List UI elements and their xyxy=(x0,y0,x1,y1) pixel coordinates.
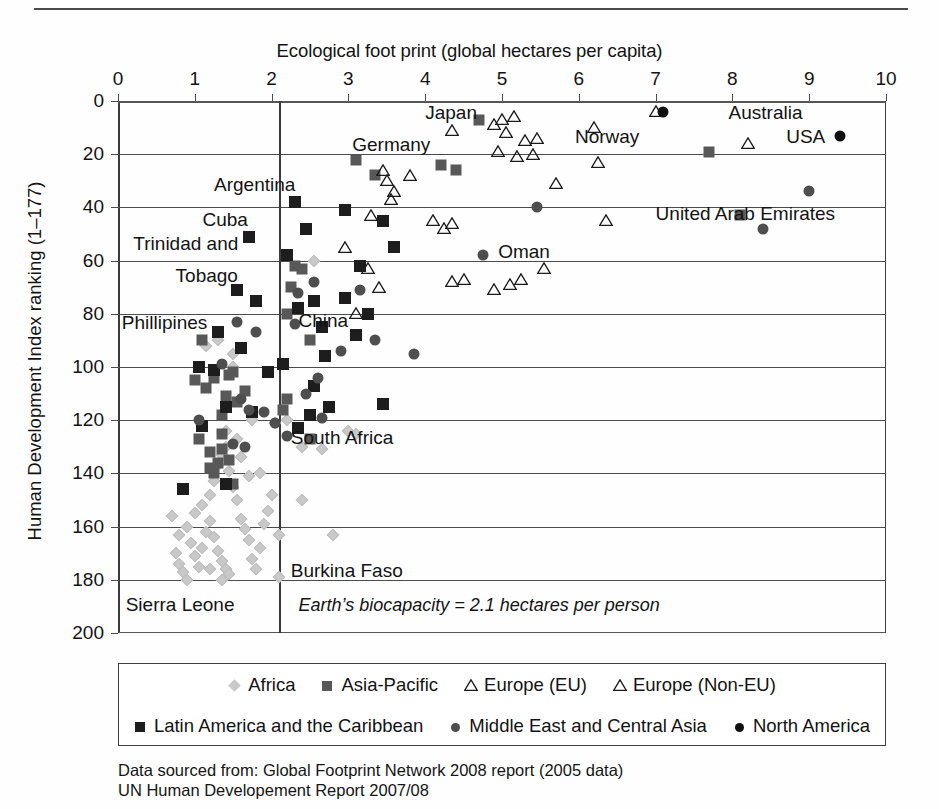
data-point xyxy=(273,571,286,584)
x-tick-label-5: 5 xyxy=(497,68,508,90)
data-point xyxy=(278,404,289,415)
data-point xyxy=(239,441,250,452)
data-point xyxy=(220,401,232,413)
x-tick-0 xyxy=(118,94,119,101)
x-tick-5 xyxy=(502,94,503,101)
data-point xyxy=(224,455,235,466)
legend-item[interactable]: Asia-Pacific xyxy=(321,674,438,696)
data-point xyxy=(308,295,320,307)
y-tick-label-140: 140 xyxy=(72,462,104,484)
data-point xyxy=(307,254,320,267)
data-point xyxy=(499,124,513,136)
x-axis-title: Ecological foot print (global hectares p… xyxy=(0,40,939,62)
data-point xyxy=(704,146,715,157)
legend-item[interactable]: Africa xyxy=(228,674,295,696)
point-label: Sierra Leone xyxy=(126,594,235,616)
data-point xyxy=(265,488,278,501)
data-point xyxy=(477,250,488,261)
y-tick-label-60: 60 xyxy=(83,250,104,272)
data-point xyxy=(262,366,274,378)
legend-item[interactable]: North America xyxy=(733,715,870,737)
y-tick-label-20: 20 xyxy=(83,143,104,165)
data-point xyxy=(591,154,605,166)
data-point xyxy=(216,428,227,439)
data-point xyxy=(258,407,269,418)
data-point xyxy=(281,414,294,427)
data-point xyxy=(507,108,521,120)
x-tick-label-2: 2 xyxy=(266,68,277,90)
y-tick-60 xyxy=(111,261,118,262)
x-tick-label-7: 7 xyxy=(650,68,661,90)
data-point xyxy=(204,563,217,576)
data-point xyxy=(741,135,755,147)
y-tick-160 xyxy=(111,527,118,528)
x-tick-label-0: 0 xyxy=(113,68,124,90)
y-tick-label-40: 40 xyxy=(83,196,104,218)
data-point xyxy=(531,202,542,213)
x-tick-8 xyxy=(732,94,733,101)
x-tick-10 xyxy=(886,94,887,101)
y-tick-label-180: 180 xyxy=(72,569,104,591)
data-point xyxy=(372,279,386,291)
legend-label: Europe (Non-EU) xyxy=(633,674,776,696)
data-point xyxy=(362,308,374,320)
legend-item[interactable]: Europe (Non-EU) xyxy=(613,674,776,696)
legend-label: North America xyxy=(753,715,870,737)
x-tick-label-8: 8 xyxy=(727,68,738,90)
data-point xyxy=(450,165,461,176)
data-point xyxy=(228,439,239,450)
legend-label: Middle East and Central Asia xyxy=(469,715,707,737)
data-point xyxy=(165,510,178,523)
source-line-2: UN Human Developement Report 2007/08 xyxy=(118,780,623,800)
data-point xyxy=(251,327,262,338)
data-point xyxy=(254,467,267,480)
point-label: USA xyxy=(786,126,825,148)
y-tick-label-160: 160 xyxy=(72,516,104,538)
point-label: Trinidad and xyxy=(133,233,238,255)
y-tick-label-200: 200 xyxy=(72,622,104,644)
data-point xyxy=(281,393,292,404)
data-point xyxy=(242,470,255,483)
x-tick-label-1: 1 xyxy=(190,68,201,90)
x-tick-2 xyxy=(272,94,273,101)
gridline-y-180 xyxy=(118,580,886,581)
data-point xyxy=(403,167,417,179)
legend-item[interactable]: Latin America and the Caribbean xyxy=(134,715,423,737)
y-axis-title: Human Development Index ranking (1–177) xyxy=(24,126,46,596)
data-point xyxy=(526,146,540,158)
point-label: Norway xyxy=(575,126,639,148)
data-point xyxy=(301,388,312,399)
y-tick-200 xyxy=(111,633,118,634)
point-label: United Arab Emirates xyxy=(656,203,836,225)
x-tick-label-6: 6 xyxy=(574,68,585,90)
y-tick-label-100: 100 xyxy=(72,356,104,378)
data-point xyxy=(834,130,845,141)
plot-axis-bottom xyxy=(118,632,886,634)
data-point xyxy=(297,263,308,274)
data-point xyxy=(377,215,389,227)
legend-item[interactable]: Europe (EU) xyxy=(464,674,587,696)
data-point xyxy=(312,372,323,383)
point-label: Burkina Faso xyxy=(291,560,403,582)
data-point xyxy=(212,326,224,338)
legend-item[interactable]: Middle East and Central Asia xyxy=(449,715,707,737)
plot-area: 020406080100120140160180200012345678910 … xyxy=(118,101,886,633)
data-point xyxy=(193,433,204,444)
data-point xyxy=(231,494,244,507)
data-point xyxy=(335,346,346,357)
gridline-y-140 xyxy=(118,473,886,474)
data-point xyxy=(220,478,232,490)
data-point xyxy=(435,159,446,170)
x-tick-4 xyxy=(425,94,426,101)
data-point xyxy=(205,463,216,474)
data-point xyxy=(350,329,362,341)
data-point xyxy=(323,401,335,413)
data-point xyxy=(658,106,669,117)
data-point xyxy=(258,518,271,531)
data-point xyxy=(387,183,401,195)
y-tick-80 xyxy=(111,314,118,315)
data-point xyxy=(304,409,316,421)
data-point xyxy=(514,271,528,283)
data-point xyxy=(354,284,365,295)
data-point xyxy=(228,367,239,378)
